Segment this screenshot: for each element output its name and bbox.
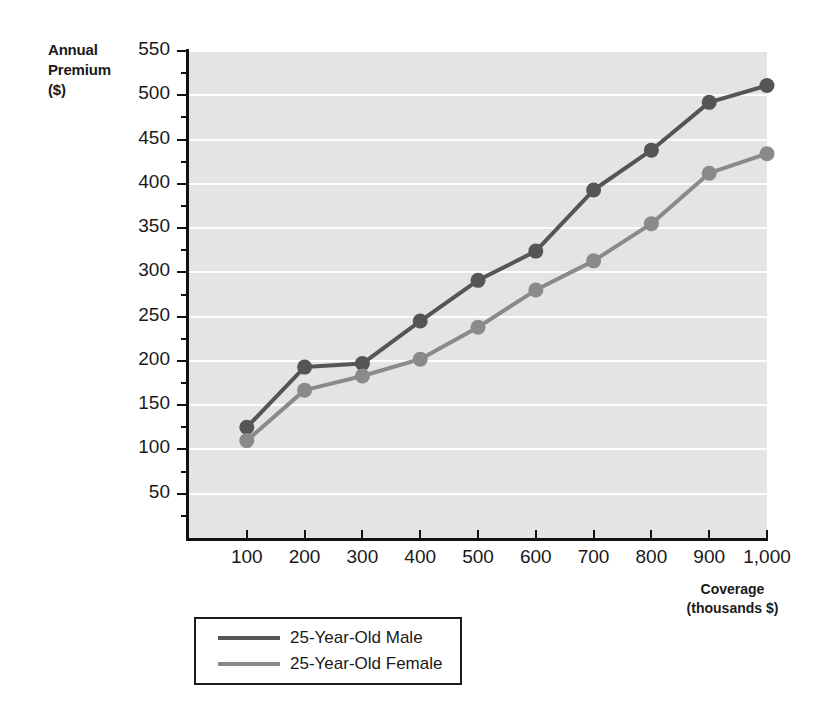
y-axis-tick-label: 100	[114, 436, 170, 458]
x-tick-major	[361, 530, 363, 541]
y-tick-major	[177, 271, 189, 273]
y-tick-major	[177, 50, 189, 52]
y-tick-minor	[181, 471, 189, 473]
x-axis-tick-label: 1,000	[732, 546, 802, 568]
y-tick-major	[177, 448, 189, 450]
series-line-female	[247, 154, 767, 441]
y-tick-minor	[181, 249, 189, 251]
y-axis-tick-label: 350	[114, 215, 170, 237]
data-point	[239, 420, 254, 435]
y-axis-tick-label: 500	[114, 82, 170, 104]
y-axis-tick-label: 200	[114, 348, 170, 370]
data-point	[471, 320, 486, 335]
y-tick-minor	[181, 72, 189, 74]
y-tick-minor	[181, 515, 189, 517]
x-axis-title-line-2: (thousands $)	[640, 599, 825, 618]
data-point	[413, 352, 428, 367]
data-point	[702, 166, 717, 181]
y-tick-minor	[181, 161, 189, 163]
legend-swatch-male	[218, 636, 280, 640]
y-tick-major	[177, 139, 189, 141]
data-point	[239, 433, 254, 448]
x-tick-major	[477, 530, 479, 541]
x-tick-major	[246, 530, 248, 541]
legend-item-male: 25-Year-Old Male	[218, 626, 423, 650]
y-axis-tick-label: 250	[114, 304, 170, 326]
y-axis-tick-label: 300	[114, 259, 170, 281]
y-tick-major	[177, 360, 189, 362]
y-axis-tick-label: 400	[114, 171, 170, 193]
y-tick-minor	[181, 338, 189, 340]
data-point	[586, 183, 601, 198]
data-point	[644, 143, 659, 158]
x-tick-major	[650, 530, 652, 541]
y-tick-minor	[181, 426, 189, 428]
data-point	[297, 360, 312, 375]
x-tick-major	[593, 530, 595, 541]
y-tick-minor	[181, 205, 189, 207]
y-tick-major	[177, 493, 189, 495]
y-tick-major	[177, 316, 189, 318]
y-tick-major	[177, 404, 189, 406]
data-point	[355, 368, 370, 383]
legend-label-male: 25-Year-Old Male	[290, 628, 423, 648]
y-axis-tick-label: 550	[114, 38, 170, 60]
data-point	[471, 273, 486, 288]
legend-swatch-female	[218, 662, 280, 666]
x-axis-title: Coverage (thousands $)	[640, 580, 825, 618]
x-tick-major	[304, 530, 306, 541]
data-point	[760, 78, 775, 93]
y-tick-major	[177, 183, 189, 185]
y-axis-tick-label: 50	[114, 481, 170, 503]
y-axis-tick-label: 450	[114, 127, 170, 149]
data-point	[528, 283, 543, 298]
data-point	[702, 95, 717, 110]
legend-item-female: 25-Year-Old Female	[218, 652, 442, 676]
legend: 25-Year-Old Male 25-Year-Old Female	[194, 617, 462, 685]
y-tick-minor	[181, 382, 189, 384]
series-line-male	[247, 86, 767, 428]
x-tick-major	[766, 530, 768, 541]
y-tick-minor	[181, 116, 189, 118]
data-point	[413, 314, 428, 329]
data-point	[586, 253, 601, 268]
x-tick-major	[419, 530, 421, 541]
y-axis-tick-label: 150	[114, 392, 170, 414]
data-point	[297, 383, 312, 398]
data-point	[760, 146, 775, 161]
line-chart-figure: Annual Premium ($) 501001502002503003504…	[0, 0, 835, 717]
y-tick-minor	[181, 294, 189, 296]
data-point	[644, 216, 659, 231]
y-axis-title-line-2: Premium	[48, 60, 143, 80]
x-tick-major	[708, 530, 710, 541]
plot-area	[189, 51, 767, 538]
legend-label-female: 25-Year-Old Female	[290, 654, 442, 674]
x-axis-title-line-1: Coverage	[640, 580, 825, 599]
x-tick-major	[535, 530, 537, 541]
y-tick-major	[177, 227, 189, 229]
y-tick-major	[177, 94, 189, 96]
data-series-group	[189, 51, 767, 538]
data-point	[528, 244, 543, 259]
